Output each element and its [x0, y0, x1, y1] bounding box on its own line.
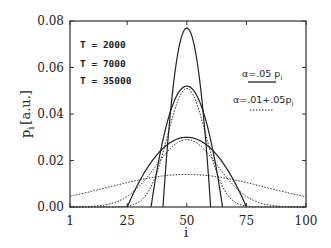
legend: α=.05 pi α=.01+.05pi [233, 68, 293, 110]
annotation-t7000: T = 7000 [80, 58, 126, 69]
legend-dotted-label: α=.01+.05pi [233, 94, 293, 108]
x-tick-label: 75 [239, 214, 254, 228]
legend-solid-label: α=.05 pi [242, 68, 282, 82]
data-curves [70, 28, 306, 207]
y-axis-title-main: p [18, 130, 33, 138]
y-axis-title-sub: i [26, 127, 36, 130]
x-tick-label: 1 [66, 214, 74, 228]
dotted-curve [70, 88, 306, 207]
dotted-curve [70, 174, 306, 196]
y-axis-title: pi[a.u.] [18, 90, 36, 138]
dotted-curve [70, 140, 306, 207]
annotation-t35000: T = 35000 [80, 75, 132, 86]
y-axis-title-unit: [a.u.] [18, 90, 33, 125]
x-tick-label: 25 [120, 214, 135, 228]
y-tick-label: 0.04 [37, 107, 64, 121]
y-tick-label: 0.00 [37, 200, 64, 214]
x-axis-title: i [184, 225, 188, 240]
x-tick-label: 100 [295, 214, 318, 228]
solid-curve [163, 28, 211, 207]
annotation-t2000: T = 2000 [80, 39, 126, 50]
chart: 12550751000.000.020.040.060.08 i pi[a.u.… [0, 0, 331, 248]
y-tick-label: 0.02 [37, 154, 64, 168]
y-tick-label: 0.08 [37, 14, 64, 28]
y-tick-label: 0.06 [37, 61, 64, 75]
solid-curve [151, 86, 223, 207]
svg-text:pi[a.u.]: pi[a.u.] [18, 90, 36, 138]
